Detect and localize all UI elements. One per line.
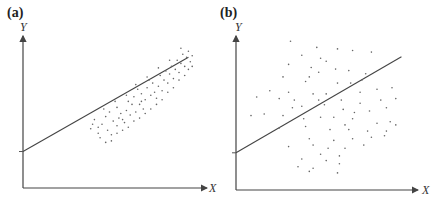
- data-point: [292, 107, 294, 109]
- data-point: [116, 133, 118, 135]
- data-point: [180, 63, 182, 65]
- data-point: [282, 115, 284, 117]
- data-point: [318, 99, 320, 101]
- data-point: [143, 108, 145, 110]
- panel-b-label: (b): [220, 5, 237, 21]
- data-point: [344, 124, 346, 126]
- data-point: [126, 95, 128, 97]
- data-point: [101, 123, 103, 125]
- data-point: [184, 75, 186, 77]
- data-point: [135, 84, 137, 86]
- panel-a-x-axis-label: X: [209, 181, 216, 196]
- data-point: [333, 116, 335, 118]
- data-point: [278, 127, 280, 129]
- data-point: [256, 96, 258, 98]
- data-point: [288, 64, 290, 66]
- data-point: [178, 72, 180, 74]
- data-point: [339, 163, 341, 165]
- data-point: [342, 109, 344, 111]
- data-point: [278, 98, 280, 100]
- data-point: [301, 158, 303, 160]
- data-point: [131, 104, 133, 106]
- data-point: [380, 99, 382, 101]
- data-point: [114, 101, 116, 103]
- data-point: [144, 99, 146, 101]
- data-point: [141, 101, 143, 103]
- scatter-regression-figure: [0, 0, 442, 209]
- data-point: [103, 108, 105, 110]
- data-point: [167, 82, 169, 84]
- data-point: [152, 82, 154, 84]
- data-point: [135, 111, 137, 113]
- data-point: [269, 90, 271, 92]
- data-point: [186, 57, 188, 59]
- data-point: [309, 76, 311, 78]
- data-point: [309, 138, 311, 140]
- data-point: [148, 79, 150, 81]
- data-point: [165, 70, 167, 72]
- data-point: [188, 50, 190, 52]
- data-point: [137, 88, 139, 90]
- data-point: [112, 120, 114, 122]
- data-point: [105, 116, 107, 118]
- data-point: [352, 50, 354, 52]
- data-point: [191, 66, 193, 68]
- data-point: [290, 40, 292, 42]
- data-point: [386, 107, 388, 109]
- data-point: [320, 58, 322, 60]
- data-point: [395, 124, 397, 126]
- data-point: [303, 118, 305, 120]
- data-point: [325, 160, 327, 162]
- data-point: [122, 129, 124, 131]
- data-point: [133, 96, 135, 98]
- data-point: [389, 121, 391, 123]
- data-point: [161, 90, 163, 92]
- data-point: [150, 95, 152, 97]
- data-point: [167, 91, 169, 93]
- data-point: [337, 172, 339, 174]
- data-point: [297, 166, 299, 168]
- panel-a-y-axis-label: Y: [20, 20, 27, 35]
- regression-line: [236, 57, 401, 153]
- data-point: [325, 61, 327, 63]
- data-point: [386, 130, 388, 132]
- data-point: [310, 67, 312, 69]
- data-point: [282, 76, 284, 78]
- data-point: [120, 113, 122, 115]
- data-point: [352, 138, 354, 140]
- data-point: [359, 102, 361, 104]
- data-point: [312, 168, 314, 170]
- data-point: [129, 114, 131, 116]
- data-point: [384, 135, 386, 137]
- data-point: [354, 112, 356, 114]
- data-point: [161, 99, 163, 101]
- data-point: [305, 81, 307, 83]
- data-point: [109, 111, 111, 113]
- data-point: [171, 66, 173, 68]
- data-point: [325, 93, 327, 95]
- data-point: [371, 137, 373, 139]
- data-point: [371, 51, 373, 53]
- data-point: [150, 108, 152, 110]
- data-point: [344, 147, 346, 149]
- data-point: [128, 101, 130, 103]
- data-point: [126, 110, 128, 112]
- data-point: [318, 71, 320, 73]
- data-point: [94, 119, 96, 121]
- data-point: [99, 137, 101, 139]
- data-point: [361, 79, 363, 81]
- data-point: [359, 92, 361, 94]
- data-point: [156, 104, 158, 106]
- data-point: [312, 93, 314, 95]
- data-point: [158, 67, 160, 69]
- data-point: [337, 48, 339, 50]
- data-point: [156, 98, 158, 100]
- panel-b-x-axis-label: X: [422, 183, 429, 198]
- data-point: [133, 120, 135, 122]
- data-point: [128, 126, 130, 128]
- regression-line: [23, 57, 188, 151]
- data-point: [190, 61, 192, 63]
- data-point: [294, 99, 296, 101]
- data-point: [320, 154, 322, 156]
- data-point: [329, 129, 331, 131]
